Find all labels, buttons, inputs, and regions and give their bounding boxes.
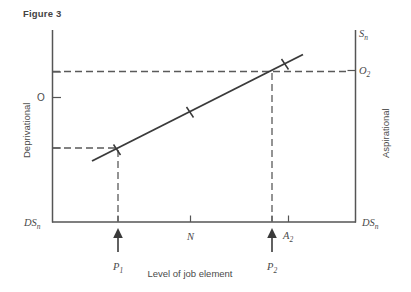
right-axis-title: Aspirational — [380, 108, 391, 158]
right-axis-label-Sn: Sn — [359, 28, 368, 42]
right-axis-label-O2: O2 — [359, 65, 371, 79]
arrow-marker-P2 — [267, 228, 277, 252]
chart-canvas: Deprivational Aspirational Sn O2 O DSn D… — [0, 0, 411, 292]
arrow-label-P2: P2 — [266, 261, 277, 275]
x-axis-title: Level of job element — [147, 268, 232, 279]
figure-container: Figure 3 — [0, 0, 411, 292]
arrow-label-P1: P1 — [112, 261, 123, 275]
right-axis-label-DSn: DSn — [361, 217, 379, 231]
x-axis-label-N: N — [186, 231, 195, 242]
arrow-marker-P1 — [113, 228, 123, 252]
left-axis-label-DSn: DSn — [23, 217, 41, 231]
left-axis-label-O: O — [37, 92, 45, 103]
left-axis-title: Deprivational — [21, 103, 32, 158]
x-axis-label-A2: A2 — [282, 230, 293, 244]
